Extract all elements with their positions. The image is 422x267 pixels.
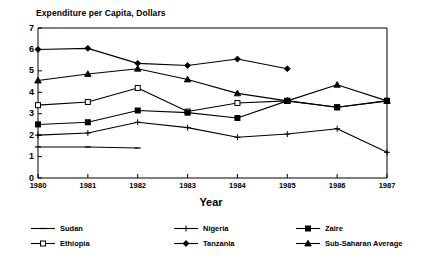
- x-tick-label: 1985: [267, 182, 307, 190]
- data-point: [35, 132, 41, 138]
- legend-marker-open-square-icon: [30, 238, 56, 249]
- data-point: [85, 99, 90, 104]
- data-point: [335, 105, 340, 110]
- plot-area: [38, 28, 387, 178]
- legend-item-ethiopia[interactable]: Ethiopia: [30, 237, 90, 250]
- data-point: [135, 108, 140, 113]
- data-point: [235, 101, 240, 106]
- data-point: [384, 149, 390, 155]
- chart-legend: SudanEthiopiaNigeriaTanzaniaZaireSub-Sah…: [30, 222, 410, 254]
- data-point: [185, 110, 190, 115]
- legend-marker-filled-diamond-icon: [173, 238, 199, 249]
- x-tick-label: 1986: [317, 182, 357, 190]
- data-point: [134, 65, 141, 71]
- y-tick-label: 5: [20, 66, 34, 75]
- y-tick-label: 6: [20, 45, 34, 54]
- legend-item-sudan[interactable]: Sudan: [30, 222, 83, 235]
- legend-marker-plus-icon: [173, 223, 199, 234]
- x-axis-label: Year: [0, 196, 422, 208]
- data-point: [284, 131, 290, 137]
- legend-label: Zaire: [325, 224, 343, 233]
- y-tick-label: 1: [20, 152, 34, 161]
- data-point: [85, 130, 91, 136]
- x-tick-label: 1982: [118, 182, 158, 190]
- data-point: [85, 120, 90, 125]
- legend-marker: [306, 226, 311, 231]
- legend-item-sub-saharan-average[interactable]: Sub-Saharan Average: [295, 237, 402, 250]
- x-tick-label: 1987: [367, 182, 407, 190]
- data-point: [334, 81, 341, 87]
- legend-marker-filled-square-icon: [295, 223, 321, 234]
- data-point: [284, 66, 290, 72]
- legend-label: Nigeria: [203, 224, 228, 233]
- legend-item-nigeria[interactable]: Nigeria: [173, 222, 228, 235]
- series-line: [38, 48, 287, 68]
- legend-label: Sub-Saharan Average: [325, 239, 402, 248]
- chart-title: Expenditure per Capita, Dollars: [36, 8, 166, 18]
- data-point: [185, 63, 191, 69]
- x-tick-label: 1980: [18, 182, 58, 190]
- data-point: [135, 119, 141, 125]
- y-tick-label: 7: [20, 24, 34, 33]
- legend-marker-dash-icon: [30, 223, 56, 234]
- x-tick-label: 1984: [217, 182, 257, 190]
- legend-label: Sudan: [60, 224, 83, 233]
- legend-marker: [183, 226, 189, 232]
- x-tick-label: 1983: [168, 182, 208, 190]
- y-tick-label: 4: [20, 88, 34, 97]
- series-tanzania: [35, 45, 290, 71]
- data-point: [35, 46, 41, 52]
- data-point: [234, 134, 240, 140]
- chart-figure: Expenditure per Capita, Dollars 01234567…: [0, 0, 422, 267]
- series-line: [38, 69, 387, 101]
- x-tick-label: 1981: [68, 182, 108, 190]
- plot-canvas: [38, 28, 387, 178]
- data-point: [135, 86, 140, 91]
- data-point: [334, 126, 340, 132]
- series-sudan: [35, 147, 141, 148]
- data-point: [234, 56, 240, 62]
- legend-marker-filled-triangle-icon: [295, 238, 321, 249]
- series-sub-saharan-average: [35, 65, 391, 103]
- legend-item-zaire[interactable]: Zaire: [295, 222, 343, 235]
- legend-item-tanzania[interactable]: Tanzania: [173, 237, 235, 250]
- legend-marker: [183, 241, 189, 247]
- data-point: [36, 122, 41, 127]
- legend-marker: [41, 241, 46, 246]
- data-point: [235, 116, 240, 121]
- data-point: [185, 125, 191, 131]
- legend-label: Tanzania: [203, 239, 235, 248]
- series-line: [38, 122, 387, 152]
- data-point: [36, 103, 41, 108]
- legend-label: Ethiopia: [60, 239, 90, 248]
- data-point: [85, 45, 91, 51]
- y-tick-label: 3: [20, 109, 34, 118]
- y-tick-label: 2: [20, 131, 34, 140]
